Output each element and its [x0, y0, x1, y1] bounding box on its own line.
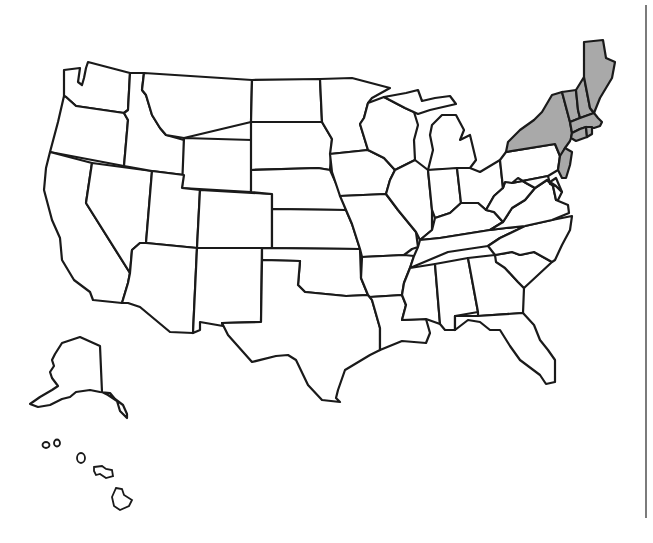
state-alaska[interactable]	[30, 337, 127, 418]
state-florida[interactable]	[455, 313, 555, 384]
state-new-mexico[interactable]	[193, 248, 262, 333]
state-rhode-island[interactable]	[586, 127, 592, 137]
state-arizona[interactable]	[122, 243, 197, 333]
hawaii-island-oahu[interactable]	[77, 453, 85, 463]
state-maine[interactable]	[584, 40, 615, 113]
us-map	[0, 0, 653, 543]
hawaii-island-big-island[interactable]	[112, 488, 132, 510]
hawaii-island-niihau[interactable]	[43, 442, 50, 448]
state-kansas[interactable]	[272, 209, 360, 249]
state-michigan-lower[interactable]	[428, 115, 476, 170]
state-south-dakota[interactable]	[251, 122, 332, 170]
state-colorado[interactable]	[197, 190, 272, 248]
state-new-york[interactable]	[506, 92, 572, 156]
hawaii-island-kauai[interactable]	[54, 440, 60, 447]
state-wyoming[interactable]	[182, 138, 252, 192]
state-north-dakota[interactable]	[251, 79, 322, 122]
state-mississippi[interactable]	[402, 264, 440, 324]
hawaii-island-maui-molokai[interactable]	[94, 466, 113, 478]
